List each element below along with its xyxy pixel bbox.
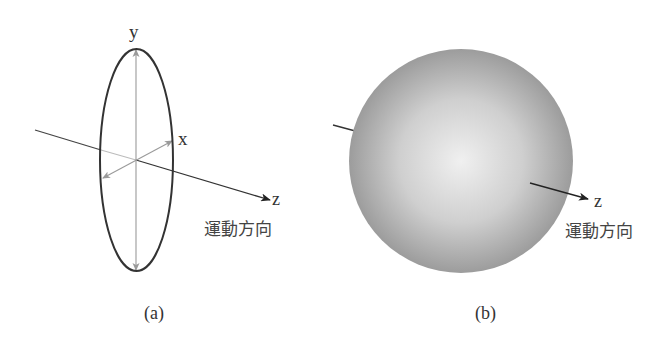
caption-a: (a) — [144, 303, 164, 324]
z-axis-label: z — [594, 191, 602, 211]
z-axis-left-segment — [35, 130, 101, 150]
x-axis-arrow — [103, 141, 172, 178]
panel-b: z 運動方向 (b) — [333, 49, 633, 324]
caption-b: (b) — [475, 303, 496, 324]
direction-of-motion-label: 運動方向 — [204, 219, 272, 239]
relativity-diagram: y x z 運動方向 (a) z 運動方向 (b) — [0, 0, 660, 347]
sphere — [349, 49, 573, 273]
z-axis-front-segment — [136, 160, 270, 200]
direction-of-motion-label: 運動方向 — [565, 221, 633, 241]
x-axis-label: x — [178, 128, 188, 149]
y-axis-label: y — [129, 21, 139, 42]
z-axis-hidden-segment — [101, 150, 136, 160]
z-axis-label: z — [272, 189, 280, 209]
panel-a: y x z 運動方向 (a) — [35, 21, 280, 324]
